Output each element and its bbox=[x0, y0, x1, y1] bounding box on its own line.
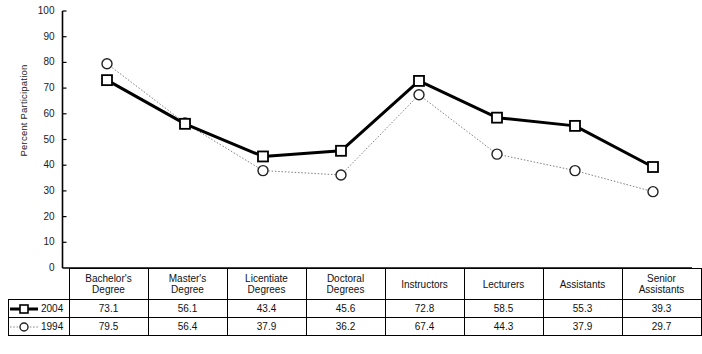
legend-item-2004[interactable]: 2004 bbox=[9, 300, 70, 318]
table-value-cell: 56.1 bbox=[148, 300, 227, 318]
data-point-circle bbox=[336, 170, 346, 180]
table-value-cell: 29.7 bbox=[622, 318, 701, 336]
data-point-square bbox=[180, 119, 190, 129]
data-point-square bbox=[414, 76, 424, 86]
data-point-square bbox=[570, 121, 580, 131]
table-header-row: Bachelor'sDegreeMaster'sDegreeLicentiate… bbox=[9, 269, 702, 300]
data-point-circle bbox=[492, 149, 502, 159]
table-header-cell-line: Master's bbox=[149, 273, 227, 284]
data-point-square bbox=[258, 151, 268, 161]
table-header-cell-line: Doctoral bbox=[307, 273, 385, 284]
table-header-cell-line: Instructors bbox=[386, 279, 464, 290]
table-header-cell-line: Degree bbox=[70, 284, 148, 295]
data-point-circle bbox=[414, 90, 424, 100]
legend-item-1994[interactable]: 1994 bbox=[9, 318, 70, 336]
legend-swatch-square-solid bbox=[9, 303, 39, 315]
legend-marker-square bbox=[20, 305, 28, 313]
line-chart-svg bbox=[0, 0, 701, 270]
table-header-cell: SeniorAssistants bbox=[622, 269, 701, 300]
data-point-circle bbox=[648, 187, 658, 197]
table-value-cell: 67.4 bbox=[385, 318, 464, 336]
table-value-cell: 37.9 bbox=[543, 318, 622, 336]
legend-inner: 2004 bbox=[9, 301, 69, 316]
data-point-circle bbox=[102, 59, 112, 69]
data-table: Bachelor'sDegreeMaster'sDegreeLicentiate… bbox=[8, 268, 702, 336]
data-point-square bbox=[648, 162, 658, 172]
table-header-cell: DoctoralDegrees bbox=[306, 269, 385, 300]
table-value-cell: 72.8 bbox=[385, 300, 464, 318]
table-header-cell-line: Senior bbox=[623, 273, 701, 284]
table-value-cell: 37.9 bbox=[227, 318, 306, 336]
legend-swatch-circle-dotted bbox=[9, 321, 39, 333]
data-point-square bbox=[492, 113, 502, 123]
table-header-cell-line: Assistants bbox=[623, 284, 701, 295]
data-point-square bbox=[336, 146, 346, 156]
table-header-cell-line: Lecturers bbox=[465, 279, 543, 290]
table-body: 200473.156.143.445.672.858.555.339.31994… bbox=[9, 300, 702, 336]
table-corner-cell bbox=[9, 269, 70, 300]
table-value-cell: 58.5 bbox=[464, 300, 543, 318]
table-value-cell: 45.6 bbox=[306, 300, 385, 318]
table-header-cell-line: Degrees bbox=[307, 284, 385, 295]
table-header-cell-line: Assistants bbox=[544, 279, 622, 290]
table-value-cell: 56.4 bbox=[148, 318, 227, 336]
table-header-cell: Instructors bbox=[385, 269, 464, 300]
table-header-cell: Lecturers bbox=[464, 269, 543, 300]
table-value-cell: 36.2 bbox=[306, 318, 385, 336]
table-value-cell: 44.3 bbox=[464, 318, 543, 336]
legend-year-label: 2004 bbox=[39, 303, 63, 314]
table-header-cell-line: Bachelor's bbox=[70, 273, 148, 284]
table-value-cell: 79.5 bbox=[69, 318, 148, 336]
series-2004 bbox=[102, 75, 658, 172]
table-header-cell: Assistants bbox=[543, 269, 622, 300]
table-header-cell: LicentiateDegrees bbox=[227, 269, 306, 300]
data-point-circle bbox=[570, 166, 580, 176]
table-header-cell-line: Licentiate bbox=[228, 273, 306, 284]
data-point-square bbox=[102, 75, 112, 85]
legend-inner: 1994 bbox=[9, 319, 69, 334]
table-header-cell: Bachelor'sDegree bbox=[69, 269, 148, 300]
table-row: 199479.556.437.936.267.444.337.929.7 bbox=[9, 318, 702, 336]
legend-year-label: 1994 bbox=[39, 321, 63, 332]
legend-marker-circle bbox=[20, 323, 28, 331]
data-point-circle bbox=[258, 166, 268, 176]
table-value-cell: 55.3 bbox=[543, 300, 622, 318]
table-row: 200473.156.143.445.672.858.555.339.3 bbox=[9, 300, 702, 318]
table-value-cell: 39.3 bbox=[622, 300, 701, 318]
plot-area: Percent Participation 100908070605040302… bbox=[0, 0, 701, 270]
axis-lines bbox=[63, 11, 693, 268]
table-header-cell: Master'sDegree bbox=[148, 269, 227, 300]
table-value-cell: 73.1 bbox=[69, 300, 148, 318]
table-header-cell-line: Degree bbox=[149, 284, 227, 295]
table-header-cell-line: Degrees bbox=[228, 284, 306, 295]
table-value-cell: 43.4 bbox=[227, 300, 306, 318]
